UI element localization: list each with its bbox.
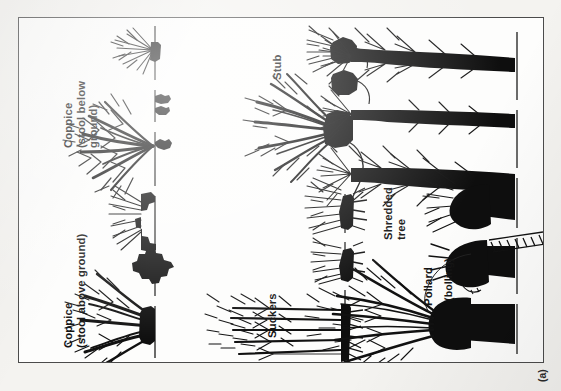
label-pollard: Pollard: [423, 267, 436, 306]
label-shredded-tree: Shredded tree: [383, 187, 408, 240]
sucker-shoot-bristles: [349, 300, 363, 360]
coppice-above-young: [109, 186, 141, 250]
suckers-middle: [311, 238, 365, 284]
coppice-below-young: [111, 28, 153, 74]
scanned-page: Coppice (stool below ground) Coppice (st…: [0, 0, 561, 391]
label-suckers: Suckers: [267, 293, 280, 338]
stool-above-ground-young: [135, 192, 156, 252]
young-stool-head: [150, 42, 161, 62]
label-coppice-stool-below-ground: Coppice (stool below ground): [63, 81, 101, 148]
coppice-above-cut-stool: [132, 247, 174, 284]
panel-stub: [243, 26, 369, 212]
coppice-below-cut-stool: [155, 94, 171, 115]
panel-suckers: [205, 178, 367, 362]
label-bolling-annotation: (bolling): [443, 258, 456, 301]
figure-caption-marker: (a): [536, 369, 548, 382]
label-coppice-stool-above-ground: Coppice (stool above ground): [63, 234, 88, 348]
figure-plate-inner: Coppice (stool below ground) Coppice (st…: [19, 18, 543, 362]
suckers-base-stubs: [341, 304, 351, 362]
stool-below-ground-mature: [155, 139, 172, 150]
stool-above-ground-mature: [139, 306, 155, 345]
label-stub: Stub: [272, 55, 285, 81]
figure-plate: Coppice (stool below ground) Coppice (st…: [18, 17, 544, 363]
